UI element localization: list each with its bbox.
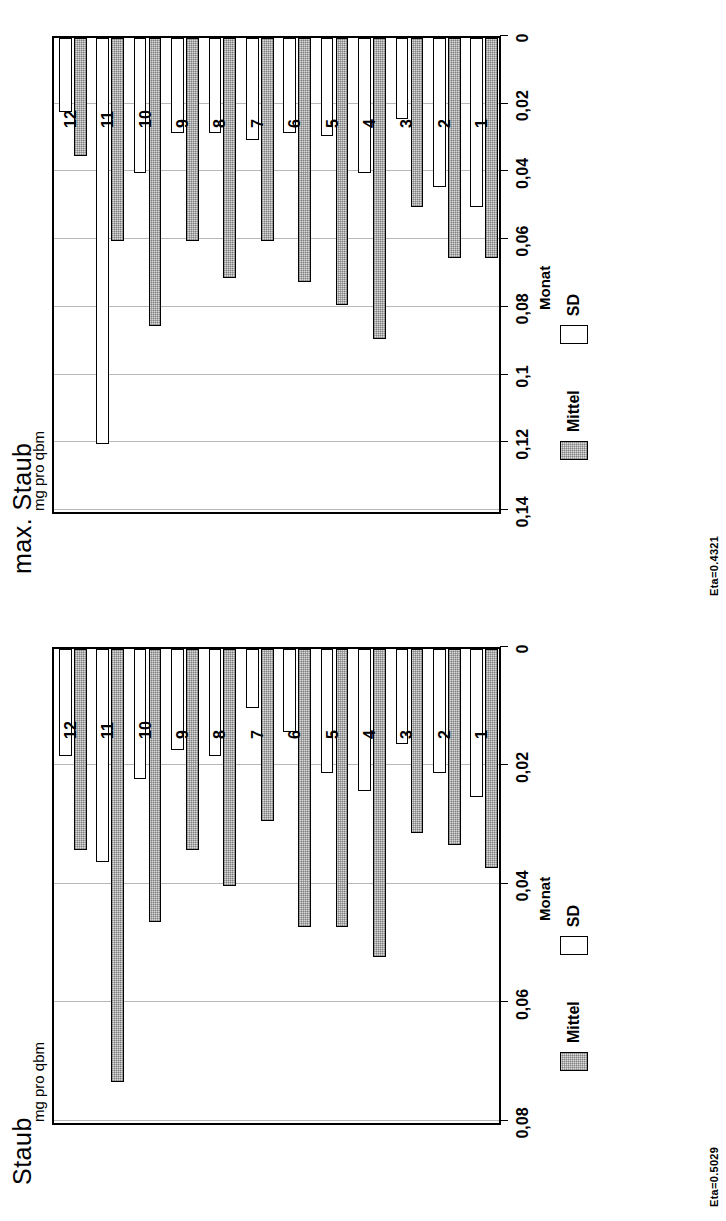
category-label-month-8: 8 [211, 730, 229, 739]
bar-mittel-month-9 [186, 649, 199, 850]
category-label-month-7: 7 [249, 730, 267, 739]
legend-label-sd: SD [565, 294, 583, 316]
axis-tick-label: 0,06 [514, 989, 532, 1020]
bar-mittel-month-4 [373, 649, 386, 957]
bar-mittel-month-2 [448, 38, 461, 258]
category-label-month-9: 9 [174, 119, 192, 128]
y-axis-label-staub: mg pro qbm [30, 1042, 47, 1122]
chart-title-staub: Staub [8, 1117, 37, 1185]
bar-mittel-month-6 [298, 38, 311, 282]
gridline [54, 441, 499, 442]
bar-mittel-month-5 [336, 38, 349, 305]
category-label-month-12: 12 [62, 721, 80, 739]
legend-item-sd: SD [560, 905, 588, 955]
bar-sd-month-2 [433, 38, 446, 187]
category-label-month-3: 3 [398, 119, 416, 128]
axis-tick-label: 0,04 [514, 870, 532, 901]
figure-staub: Staub mg pro qbm Monat Mittel SD Eta=0.5… [0, 611, 726, 1221]
legend-label-sd: SD [565, 905, 583, 927]
category-label-month-10: 10 [137, 721, 155, 739]
axis-tick [500, 765, 508, 766]
legend-swatch-mittel-icon [560, 1052, 588, 1071]
category-label-month-12: 12 [62, 110, 80, 128]
legend-swatch-sd-icon [560, 936, 588, 955]
axis-tick [500, 509, 508, 510]
bar-sd-month-10 [134, 38, 147, 173]
axis-tick-label: 0,14 [514, 496, 532, 527]
category-label-month-5: 5 [324, 730, 342, 739]
category-label-month-10: 10 [137, 110, 155, 128]
category-label-month-3: 3 [398, 730, 416, 739]
bar-mittel-month-3 [411, 649, 424, 833]
category-label-month-5: 5 [324, 119, 342, 128]
axis-tick-label: 0 [514, 645, 532, 654]
gridline [54, 374, 499, 375]
bar-mittel-month-10 [149, 649, 162, 922]
category-label-month-4: 4 [361, 119, 379, 128]
axis-tick-label: 0,12 [514, 429, 532, 460]
bar-sd-month-2 [433, 649, 446, 773]
axis-tick-label: 0,08 [514, 293, 532, 324]
figure-rotated-canvas-max-staub: max. Staub mg pro qbm Monat Mittel SD Et… [0, 0, 726, 610]
axis-tick-label: 0,02 [514, 90, 532, 121]
category-label-month-1: 1 [473, 119, 491, 128]
axis-tick [500, 35, 508, 36]
bar-sd-month-3 [396, 38, 409, 119]
bar-sd-month-11 [96, 649, 109, 862]
category-label-month-2: 2 [436, 119, 454, 128]
bar-mittel-month-7 [261, 38, 274, 241]
category-label-month-2: 2 [436, 730, 454, 739]
axis-tick-label: 0,06 [514, 226, 532, 257]
bar-sd-month-6 [283, 649, 296, 732]
category-label-month-6: 6 [286, 730, 304, 739]
bar-mittel-month-2 [448, 649, 461, 845]
bar-sd-month-1 [470, 649, 483, 797]
legend-label-mittel: Mittel [565, 390, 583, 432]
legend-swatch-sd-icon [560, 325, 588, 344]
axis-tick [500, 170, 508, 171]
gridline [54, 1120, 499, 1121]
axis-tick [500, 306, 508, 307]
bar-mittel-month-6 [298, 649, 311, 927]
axis-tick-label: 0,1 [514, 365, 532, 387]
axis-tick [500, 646, 508, 647]
eta-annotation-max-staub: Eta=0.4321 [708, 536, 720, 596]
bar-sd-month-5 [321, 649, 334, 773]
bar-mittel-month-8 [223, 649, 236, 886]
bar-mittel-month-1 [485, 649, 498, 868]
legend-staub: Mittel SD [560, 905, 588, 1071]
figure-max-staub: max. Staub mg pro qbm Monat Mittel SD Et… [0, 0, 726, 610]
bar-mittel-month-12 [74, 649, 87, 850]
axis-tick [500, 1002, 508, 1003]
legend-item-mittel: Mittel [560, 1001, 588, 1071]
axis-tick [500, 238, 508, 239]
legend-item-sd: SD [560, 294, 588, 344]
category-label-month-8: 8 [211, 119, 229, 128]
axis-tick-label: 0,02 [514, 752, 532, 783]
bar-mittel-month-1 [485, 38, 498, 258]
axis-tick [500, 441, 508, 442]
axis-tick-label: 0,08 [514, 1107, 532, 1138]
bar-sd-month-7 [246, 649, 259, 708]
category-label-month-7: 7 [249, 119, 267, 128]
gridline [54, 306, 499, 307]
bar-sd-month-8 [209, 649, 222, 756]
bar-mittel-month-12 [74, 38, 87, 157]
category-label-month-6: 6 [286, 119, 304, 128]
category-label-month-11: 11 [99, 111, 117, 128]
bar-sd-month-4 [358, 649, 371, 791]
x-axis-label-max-staub: Monat [536, 266, 553, 310]
legend-item-mittel: Mittel [560, 390, 588, 460]
eta-annotation-staub: Eta=0.5029 [708, 1147, 720, 1207]
x-axis-label-staub: Monat [536, 877, 553, 921]
axis-tick-label: 0 [514, 34, 532, 43]
axis-tick [500, 103, 508, 104]
bar-mittel-month-4 [373, 38, 386, 339]
bar-sd-month-12 [59, 649, 72, 756]
bar-mittel-month-10 [149, 38, 162, 326]
bar-mittel-month-11 [111, 649, 124, 1082]
bar-sd-month-4 [358, 38, 371, 173]
bar-sd-month-10 [134, 649, 147, 779]
legend-swatch-mittel-icon [560, 441, 588, 460]
category-label-month-9: 9 [174, 730, 192, 739]
